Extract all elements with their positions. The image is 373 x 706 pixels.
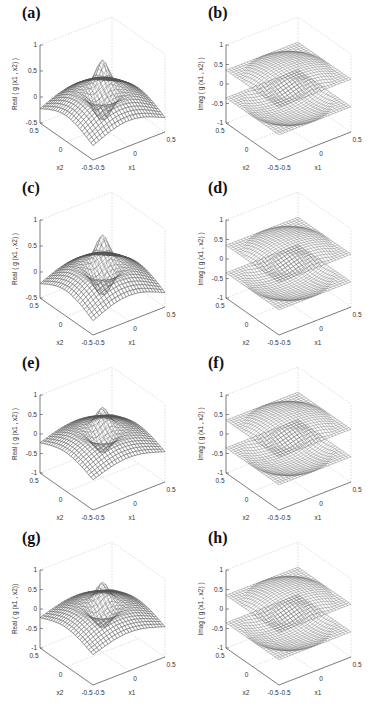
panel-e: 10.50-0.5-10.50-0.5-0.500.5x2x1Real ( g … xyxy=(0,350,186,526)
svg-text:0: 0 xyxy=(133,500,137,507)
svg-text:0.5: 0.5 xyxy=(352,136,361,143)
svg-text:0: 0 xyxy=(245,496,249,503)
svg-text:-0.5: -0.5 xyxy=(81,339,93,346)
svg-text:Real ( g (x1 , x2)): Real ( g (x1 , x2)) xyxy=(11,584,19,634)
svg-text:0: 0 xyxy=(219,255,223,262)
panel-label: (c) xyxy=(22,179,40,197)
svg-text:x2: x2 xyxy=(243,514,250,521)
svg-text:0.5: 0.5 xyxy=(215,652,224,659)
svg-text:0.5: 0.5 xyxy=(215,127,224,134)
svg-text:0.5: 0.5 xyxy=(215,477,224,484)
panel-label: (b) xyxy=(208,4,228,22)
svg-text:-0.5: -0.5 xyxy=(279,339,291,346)
svg-text:-0.5: -0.5 xyxy=(212,275,224,282)
svg-text:0.5: 0.5 xyxy=(28,242,37,249)
svg-text:-0.5: -0.5 xyxy=(93,514,105,521)
svg-text:0.5: 0.5 xyxy=(29,302,38,309)
svg-text:-0.5: -0.5 xyxy=(212,450,224,457)
svg-text:-0.5: -0.5 xyxy=(26,625,38,632)
svg-text:0.5: 0.5 xyxy=(28,586,37,593)
svg-text:1: 1 xyxy=(33,41,37,48)
surface-plot: 10.50-0.5-10.50-0.5-0.500.5x2x1Real ( g … xyxy=(0,525,186,701)
svg-text:x2: x2 xyxy=(57,164,64,171)
svg-text:x1: x1 xyxy=(315,164,322,171)
svg-text:0: 0 xyxy=(219,430,223,437)
svg-text:x1: x1 xyxy=(315,339,322,346)
panel-label: (g) xyxy=(22,529,41,547)
svg-text:0.5: 0.5 xyxy=(214,236,223,243)
svg-text:-0.5: -0.5 xyxy=(279,514,291,521)
svg-text:0.5: 0.5 xyxy=(214,586,223,593)
svg-text:0: 0 xyxy=(33,605,37,612)
svg-text:-1: -1 xyxy=(31,644,37,651)
svg-text:0.5: 0.5 xyxy=(352,661,361,668)
svg-text:x2: x2 xyxy=(243,164,250,171)
svg-text:-0.5: -0.5 xyxy=(267,514,279,521)
svg-text:0: 0 xyxy=(59,146,63,153)
svg-text:Imag ( g (x1 , x2) ): Imag ( g (x1 , x2) ) xyxy=(197,407,205,460)
svg-text:Real ( g (x1 , x2) ): Real ( g (x1 , x2) ) xyxy=(11,58,19,110)
surface-plot: 10.50-0.5-10.50-0.5-0.500.5x2x1Imag ( g … xyxy=(186,0,372,176)
svg-text:0: 0 xyxy=(59,496,63,503)
svg-text:x1: x1 xyxy=(129,164,136,171)
svg-text:x1: x1 xyxy=(129,689,136,696)
svg-text:Imag ( g (x1 , x2) ): Imag ( g (x1 , x2) ) xyxy=(197,582,205,635)
surface-plot: 10.50-0.50.50-0.5-0.500.5x2x1Real ( g (x… xyxy=(0,175,186,351)
panel-label: (a) xyxy=(22,4,41,22)
svg-text:0: 0 xyxy=(59,671,63,678)
svg-text:-0.5: -0.5 xyxy=(267,339,279,346)
panel-a: 10.50-0.50.50-0.5-0.500.5x2x1Real ( g (x… xyxy=(0,0,186,176)
svg-text:x2: x2 xyxy=(57,689,64,696)
svg-text:0.5: 0.5 xyxy=(352,486,361,493)
svg-text:1: 1 xyxy=(33,216,37,223)
svg-text:0: 0 xyxy=(219,605,223,612)
svg-text:x2: x2 xyxy=(57,514,64,521)
svg-text:1: 1 xyxy=(219,391,223,398)
svg-text:0: 0 xyxy=(33,268,37,275)
svg-text:x1: x1 xyxy=(315,514,322,521)
svg-text:0.5: 0.5 xyxy=(29,652,38,659)
svg-text:1: 1 xyxy=(33,391,37,398)
svg-text:0: 0 xyxy=(319,675,323,682)
svg-text:-1: -1 xyxy=(31,469,37,476)
svg-text:0.5: 0.5 xyxy=(214,61,223,68)
svg-text:1: 1 xyxy=(219,566,223,573)
svg-text:-0.5: -0.5 xyxy=(93,164,105,171)
panel-f: 10.50-0.5-10.50-0.5-0.500.5x2x1Imag ( g … xyxy=(186,350,372,526)
svg-text:0.5: 0.5 xyxy=(29,127,38,134)
svg-text:0.5: 0.5 xyxy=(29,477,38,484)
svg-text:-0.5: -0.5 xyxy=(26,294,38,301)
svg-text:0.5: 0.5 xyxy=(166,311,175,318)
panel-label: (f) xyxy=(208,354,224,372)
svg-text:0: 0 xyxy=(245,146,249,153)
svg-text:-0.5: -0.5 xyxy=(81,689,93,696)
svg-text:0.5: 0.5 xyxy=(215,302,224,309)
svg-text:0.5: 0.5 xyxy=(166,486,175,493)
svg-text:0: 0 xyxy=(33,93,37,100)
surface-plot: 10.50-0.50.50-0.5-0.500.5x2x1Real ( g (x… xyxy=(0,0,186,176)
panel-c: 10.50-0.50.50-0.5-0.500.5x2x1Real ( g (x… xyxy=(0,175,186,351)
surface-plot: 10.50-0.5-10.50-0.5-0.500.5x2x1Imag ( g … xyxy=(186,525,372,701)
svg-text:-0.5: -0.5 xyxy=(279,164,291,171)
svg-text:-0.5: -0.5 xyxy=(81,514,93,521)
svg-text:0.5: 0.5 xyxy=(166,661,175,668)
svg-text:-0.5: -0.5 xyxy=(212,625,224,632)
svg-text:-1: -1 xyxy=(217,294,223,301)
svg-text:0: 0 xyxy=(245,321,249,328)
svg-text:Imag ( g (x1 , x2) ): Imag ( g (x1 , x2) ) xyxy=(197,57,205,110)
svg-text:0: 0 xyxy=(319,150,323,157)
svg-text:x1: x1 xyxy=(129,514,136,521)
surface-plot: 10.50-0.5-10.50-0.5-0.500.5x2x1Real ( g … xyxy=(0,350,186,526)
svg-text:Real ( g (x1 , x2) ): Real ( g (x1 , x2) ) xyxy=(11,233,19,285)
svg-text:0: 0 xyxy=(133,325,137,332)
panel-d: 10.50-0.5-10.50-0.5-0.500.5x2x1Imag ( g … xyxy=(186,175,372,351)
svg-text:0: 0 xyxy=(133,675,137,682)
svg-text:x2: x2 xyxy=(243,339,250,346)
surface-plot: 10.50-0.5-10.50-0.5-0.500.5x2x1Imag ( g … xyxy=(186,350,372,526)
svg-text:Real ( g (x1 , x2) ): Real ( g (x1 , x2) ) xyxy=(11,408,19,460)
svg-text:0: 0 xyxy=(133,150,137,157)
svg-text:-0.5: -0.5 xyxy=(212,100,224,107)
svg-text:0.5: 0.5 xyxy=(28,411,37,418)
svg-text:Imag ( g (x1 , x2) ): Imag ( g (x1 , x2) ) xyxy=(197,232,205,285)
svg-text:0.5: 0.5 xyxy=(352,311,361,318)
